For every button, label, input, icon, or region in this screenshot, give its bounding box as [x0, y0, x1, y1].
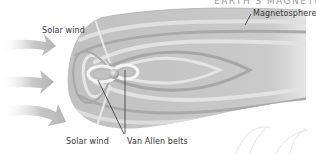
label-van-allen-belts: Van Allen belts — [127, 138, 188, 146]
magnetosphere-diagram: EARTH'S MAGNETOSPHERE — [0, 0, 316, 154]
diagram-artwork — [0, 0, 316, 154]
label-solar-wind-top: Solar wind — [42, 27, 85, 35]
magnetosphere-body — [68, 8, 310, 129]
field-lines-decoration — [236, 126, 308, 154]
label-solar-wind-bottom: Solar wind — [66, 138, 109, 146]
earth-icon — [109, 69, 119, 79]
solar-wind-arrows — [0, 34, 66, 126]
label-magnetosphere: Magnetosphere — [253, 10, 316, 18]
